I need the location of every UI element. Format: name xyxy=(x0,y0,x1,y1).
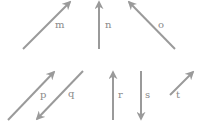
vector-label: m xyxy=(55,19,65,30)
vector-n: n xyxy=(99,2,112,49)
vector-s: s xyxy=(141,71,150,119)
arrow-icon xyxy=(129,2,175,49)
arrow-icon xyxy=(170,72,193,95)
vector-m: m xyxy=(23,2,70,49)
vector-label: r xyxy=(118,89,123,100)
vector-label: o xyxy=(158,19,164,30)
vector-t: t xyxy=(170,72,193,100)
arrow-icon xyxy=(8,72,54,120)
vector-diagram: mnopqrst xyxy=(0,0,201,138)
vector-label: t xyxy=(176,89,180,100)
vector-label: p xyxy=(40,89,46,100)
vector-label: q xyxy=(68,88,75,99)
vector-r: r xyxy=(113,72,123,120)
vector-p: p xyxy=(8,72,54,120)
vector-label: s xyxy=(145,89,150,100)
vector-group: mnopqrst xyxy=(8,2,193,120)
vector-label: n xyxy=(105,19,112,30)
vector-o: o xyxy=(129,2,175,49)
